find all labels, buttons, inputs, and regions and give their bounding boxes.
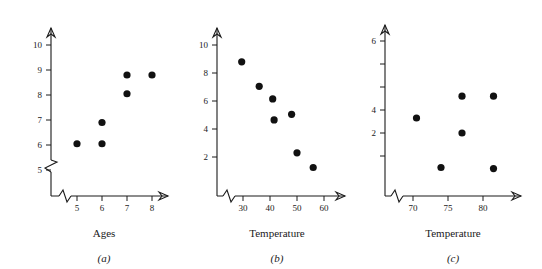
chart-b-ytick-6: 6: [204, 96, 209, 106]
chart-a-xlabel: Ages: [93, 227, 116, 239]
chart-b-ytick-8: 8: [204, 68, 209, 78]
chart-b-y-axis: [213, 28, 221, 196]
data-point: [490, 93, 497, 100]
data-point: [288, 111, 295, 118]
chart-a-y-axis: [45, 28, 57, 196]
chart-c-svg: 6 4 2 70 75 80 Temper: [365, 0, 542, 269]
chart-a-xtick-8: 8: [150, 203, 155, 213]
chart-a-xtick-7: 7: [125, 203, 130, 213]
chart-b-ytick-4: 4: [204, 124, 209, 134]
chart-c-ytick-2: 2: [372, 128, 377, 138]
chart-c-xtick-70: 70: [409, 203, 419, 213]
data-point: [413, 114, 420, 121]
chart-b-xtick-50: 50: [293, 203, 303, 213]
chart-b-svg: 10 8 6 4 2 30 40 50 60: [185, 0, 365, 269]
chart-c-xtick-80: 80: [479, 203, 489, 213]
chart-c-ytick-6: 6: [372, 36, 377, 46]
chart-c-ytick-4: 4: [372, 105, 377, 115]
data-point: [271, 116, 278, 123]
chart-b-xtick-60: 60: [320, 203, 330, 213]
data-point: [269, 95, 276, 102]
data-point: [148, 71, 155, 78]
chart-a-ytick-6: 6: [38, 140, 43, 150]
chart-a-ytick-7: 7: [38, 115, 43, 125]
chart-c-x-ticks: 70 75 80: [409, 196, 489, 213]
chart-a-svg: 10 9 8 7 6 5 5 6 7 8: [0, 0, 185, 269]
chart-c-xtick-75: 75: [444, 203, 454, 213]
chart-b-x-axis: [217, 190, 345, 202]
data-point: [256, 83, 263, 90]
chart-c-y-ticks: 6 4 2: [372, 36, 386, 156]
chart-b-ytick-10: 10: [199, 40, 209, 50]
chart-b-y-ticks: 10 8 6 4 2: [199, 40, 217, 162]
chart-b-x-ticks: 30 40 50 60: [239, 196, 330, 213]
scatterplot-figure: 10 9 8 7 6 5 5 6 7 8: [0, 0, 542, 269]
chart-b-xtick-40: 40: [266, 203, 276, 213]
data-point: [458, 129, 465, 136]
data-point: [98, 140, 105, 147]
data-point: [238, 58, 245, 65]
data-point: [310, 164, 317, 171]
chart-a-y-ticks: 10 9 8 7 6 5: [33, 40, 51, 175]
chart-a-ytick-9: 9: [38, 65, 43, 75]
chart-b-xlabel: Temperature: [249, 227, 305, 239]
chart-a-xtick-5: 5: [75, 203, 80, 213]
data-point: [490, 165, 497, 172]
data-point: [458, 93, 465, 100]
chart-a-ytick-8: 8: [38, 90, 43, 100]
data-point: [437, 164, 444, 171]
chart-b-xtick-30: 30: [239, 203, 249, 213]
chart-c-xlabel: Temperature: [425, 227, 481, 239]
chart-a-ytick-5: 5: [38, 165, 43, 175]
chart-panel-a: 10 9 8 7 6 5 5 6 7 8: [0, 0, 185, 269]
chart-c-data-points: [413, 93, 497, 173]
chart-a-caption: (a): [98, 252, 111, 265]
chart-b-caption: (b): [271, 252, 284, 265]
chart-b-ytick-2: 2: [204, 152, 209, 162]
chart-c-x-axis: [385, 190, 521, 202]
data-point: [123, 90, 130, 97]
chart-b-data-points: [238, 58, 317, 171]
chart-c-caption: (c): [447, 252, 460, 265]
chart-panel-b: 10 8 6 4 2 30 40 50 60: [185, 0, 365, 269]
chart-a-x-axis: [51, 190, 168, 202]
chart-a-ytick-10: 10: [33, 40, 43, 50]
data-point: [73, 140, 80, 147]
data-point: [293, 149, 300, 156]
data-point: [98, 119, 105, 126]
chart-a-data-points: [73, 71, 155, 147]
chart-panel-c: 6 4 2 70 75 80 Temper: [365, 0, 542, 269]
chart-a-xtick-6: 6: [100, 203, 105, 213]
chart-a-x-ticks: 5 6 7 8: [75, 196, 155, 213]
data-point: [123, 71, 130, 78]
